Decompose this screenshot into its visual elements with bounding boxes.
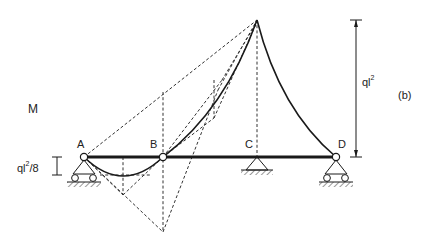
peak-moment-exp: 2 [371, 74, 375, 81]
peak-moment-base: ql [362, 76, 371, 88]
node-label-d: D [338, 139, 346, 150]
support-a-roller-icon [67, 160, 101, 187]
peak-moment-label: ql2 [362, 75, 374, 88]
span-moment-label: ql2/8 [17, 161, 39, 174]
node-label-c: C [245, 139, 253, 150]
span-moment-suffix: /8 [29, 162, 38, 174]
node-label-a: A [77, 139, 84, 150]
node-label-b: B [150, 139, 157, 150]
support-c-pin-icon [241, 157, 273, 175]
dimension-peak-moment [350, 20, 362, 157]
construction-lines [84, 20, 257, 232]
moment-diagram [0, 0, 437, 251]
span-moment-base: ql [17, 162, 26, 174]
dimension-span-moment [52, 157, 62, 175]
moment-curve-cd [257, 20, 336, 157]
figure-label: (b) [398, 90, 411, 101]
span-moment-exp: 2 [26, 160, 30, 167]
node-b-hinge [159, 153, 166, 160]
support-d-roller-icon [319, 160, 353, 187]
quantity-label: M [28, 103, 38, 115]
moment-curve-bc [163, 20, 257, 157]
